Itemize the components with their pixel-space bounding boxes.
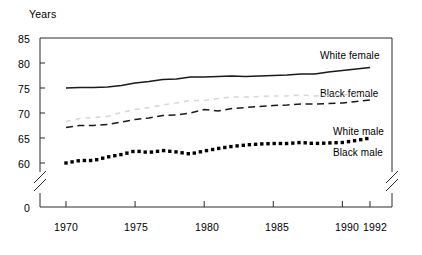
axes-frame [34,38,398,207]
plot-svg [0,0,422,255]
data-lines [64,68,370,165]
life-expectancy-chart: Years 85 80 75 70 65 60 0 1970 1975 1980… [0,0,422,255]
